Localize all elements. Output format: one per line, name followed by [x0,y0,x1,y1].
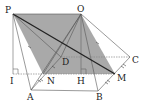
label-I: I [10,76,14,86]
label-H: H [77,76,85,86]
edge-AB [31,90,98,91]
label-C: C [132,55,139,65]
label-A: A [26,92,34,102]
label-O: O [77,4,84,14]
geometry-figure: P O C D I N H M A B [0,0,147,108]
label-N: N [47,76,55,86]
label-M: M [117,73,126,83]
label-B: B [96,92,103,102]
label-P: P [5,5,11,15]
right-angle-I [13,69,18,74]
label-D: D [62,57,69,67]
